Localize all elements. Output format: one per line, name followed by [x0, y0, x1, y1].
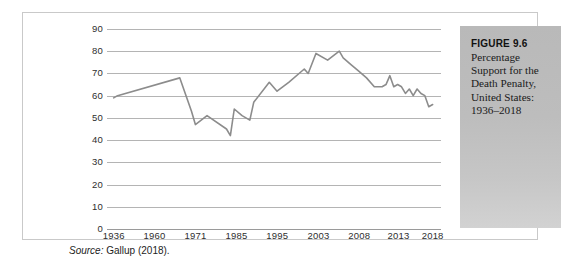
y-tick-label: 40 [69, 135, 103, 145]
figure-caption-text: Percentage Support for the Death Penalty… [471, 51, 552, 117]
x-tick-label: 1971 [185, 231, 207, 241]
source-label: Source: [69, 245, 103, 256]
plot-region [107, 29, 441, 229]
plot-wrapper: 9080706050403020100 [69, 29, 441, 229]
x-tick-label: 1985 [226, 231, 248, 241]
x-tick-label: 1936 [103, 231, 125, 241]
y-tick-label: 80 [69, 46, 103, 56]
caption-panel: FIGURE 9.6 Percentage Support for the De… [460, 26, 561, 228]
y-tick-label: 50 [69, 113, 103, 123]
source-note: Source: Gallup (2018). [69, 245, 170, 256]
x-tick-label: 1995 [266, 231, 288, 241]
x-tick-label: 2018 [422, 231, 444, 241]
y-tick-label: 70 [69, 69, 103, 79]
y-axis-labels: 9080706050403020100 [69, 29, 103, 229]
line-series-svg [107, 29, 441, 229]
figure-number: FIGURE 9.6 [471, 38, 552, 49]
y-tick-label: 90 [69, 24, 103, 34]
figure-frame: 9080706050403020100 19361960197119851995… [22, 12, 538, 240]
death-penalty-support-line [114, 51, 433, 135]
y-tick-label: 60 [69, 91, 103, 101]
source-text: Gallup (2018). [103, 245, 169, 256]
y-tick-label: 10 [69, 202, 103, 212]
y-tick-label: 30 [69, 158, 103, 168]
x-axis-labels: 193619601971198519952003200820132018 [107, 229, 441, 245]
chart-area: 9080706050403020100 19361960197119851995… [69, 29, 441, 241]
x-tick-label: 2003 [307, 231, 329, 241]
x-tick-label: 2008 [348, 231, 370, 241]
y-tick-label: 20 [69, 180, 103, 190]
x-tick-label: 1960 [143, 231, 165, 241]
y-tick-label: 0 [69, 224, 103, 234]
x-tick-label: 2013 [388, 231, 410, 241]
